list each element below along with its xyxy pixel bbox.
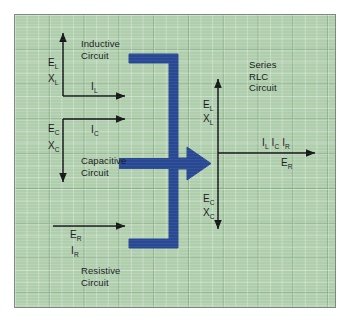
- series-rlc-axes: [218, 79, 315, 229]
- capacitive-caption: Capacitive Circuit: [81, 155, 126, 178]
- rlc-current-labels: IL IC IR: [262, 137, 290, 148]
- capacitive-reactance-label: XC: [48, 140, 60, 151]
- rlc-resistive-voltage-label: ER: [281, 157, 293, 168]
- rlc-capacitive-voltage-label: EC: [203, 193, 215, 204]
- series-rlc-caption: Series RLC Circuit: [249, 59, 277, 94]
- phasor-diagram-figure: Inductive Circuit EL XL IL Capacitive Ci…: [14, 14, 336, 308]
- rlc-inductive-reactance-label: XL: [203, 113, 214, 124]
- capacitive-current-label: IC: [91, 124, 99, 135]
- resistive-current-label: IR: [71, 245, 79, 256]
- capacitive-voltage-label: EC: [48, 123, 60, 134]
- inductive-reactance-label: XL: [48, 73, 59, 84]
- inductive-voltage-label: EL: [48, 57, 59, 68]
- resistive-voltage-label: ER: [70, 229, 82, 240]
- rlc-inductive-voltage-label: EL: [203, 99, 214, 110]
- inductive-caption: Inductive Circuit: [81, 38, 120, 61]
- resistive-caption: Resistive Circuit: [81, 265, 120, 288]
- rlc-capacitive-reactance-label: XC: [203, 207, 215, 218]
- inductive-current-label: IL: [91, 81, 98, 92]
- combining-arrow: [119, 54, 211, 248]
